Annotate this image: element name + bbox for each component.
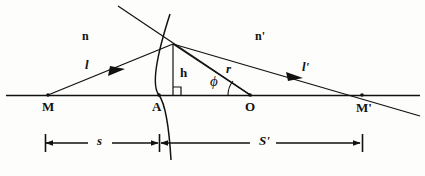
label-medium-n: n (82, 30, 89, 42)
label-angle-phi: ϕ (210, 74, 218, 89)
dot-A (157, 93, 161, 97)
right-angle-marker (173, 87, 181, 95)
label-radius-r: r (226, 62, 231, 75)
dot-O (248, 93, 252, 97)
label-point-M-prime: M' (356, 101, 372, 114)
label-point-O: O (245, 100, 255, 113)
label-medium-n-prime: n' (255, 30, 265, 42)
label-height-h: h (180, 66, 187, 79)
label-image-distance-s-prime: S' (259, 134, 270, 147)
refracted-ray-arrowhead (286, 72, 303, 81)
label-refracted-ray-l-prime: l' (302, 60, 309, 73)
dot-M (46, 93, 50, 97)
label-point-M: M (42, 100, 54, 113)
label-object-distance-s: s (97, 134, 102, 147)
dot-M-prime (360, 93, 364, 97)
optics-diagram: n n' l l' M A O M' h r ϕ s S' (0, 0, 425, 176)
label-incident-ray-l: l (85, 58, 89, 71)
label-point-A: A (152, 100, 161, 113)
incident-ray-arrowhead (108, 66, 125, 76)
